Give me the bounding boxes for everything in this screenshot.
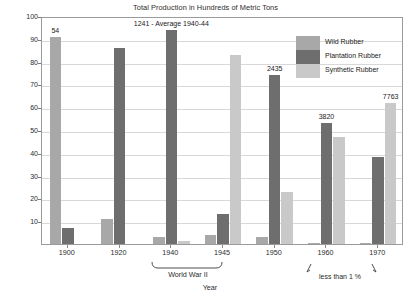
x-axis-tick-label: 1960 [305,248,345,257]
bar-group-1900: 54 [42,18,94,244]
x-axis-tick-label: 1950 [254,248,294,257]
bar-1900-wild-rubber [50,37,62,244]
x-axis-tick-label: 1900 [47,248,87,257]
y-axis-tick-label: 40 [14,150,38,157]
less-than-one-arrow-left [307,264,311,272]
bar-1940-synthetic-rubber [178,241,190,244]
bar-1940-plantation-rubber [166,30,178,244]
x-axis-tick-mark [170,245,171,248]
x-axis-tick-mark [377,245,378,248]
bar-group-1920 [94,18,146,244]
bar-1960-synthetic-rubber [333,137,345,244]
bar-group-1940: 1241 - Average 1940-44 [145,18,197,244]
y-axis-tick-label: 10 [14,218,38,225]
legend-label-plantation-rubber: Plantation Rubber [325,49,381,63]
x-axis-tick-mark [222,245,223,248]
less-than-one-arrow-right [372,264,376,272]
bar-1920-plantation-rubber [114,48,126,244]
x-axis-tick-label: 1920 [99,248,139,257]
y-axis-tick-label: 80 [14,59,38,66]
y-axis-tick-label: 20 [14,195,38,202]
bar-1970-wild-rubber [360,243,372,244]
bar-data-label: 7763 [331,93,411,100]
bar-1945-wild-rubber [205,235,217,244]
legend-swatch-wild-rubber [296,36,320,50]
y-axis-tick-label: 60 [14,104,38,111]
y-axis-tick-label: 70 [14,81,38,88]
bar-1945-plantation-rubber [217,214,229,244]
rubber-production-bar-chart: Total Production in Hundreds of Metric T… [0,0,411,300]
bar-1950-wild-rubber [256,237,268,244]
x-axis-tick-mark [67,245,68,248]
bar-1970-plantation-rubber [372,157,384,244]
y-axis-tick-label: 90 [14,36,38,43]
x-axis-tick-label: 1945 [202,248,242,257]
world-war-2-bracket [152,262,222,268]
x-axis-title: Year [180,283,240,292]
legend-swatch-synthetic-rubber [296,64,320,78]
y-axis-tick-label: 50 [14,127,38,134]
bar-1900-plantation-rubber [62,228,74,244]
y-axis-tick-labels: 100908070605040302010 [11,17,38,245]
x-axis-tick-label: 1940 [150,248,190,257]
less-than-one-percent-label: less than 1 % [305,273,375,280]
legend-labels: Wild RubberPlantation RubberSynthetic Ru… [325,35,381,77]
bar-1960-plantation-rubber [321,123,333,244]
legend-swatches [296,36,320,78]
y-axis-tick-label: 100 [14,13,38,20]
bar-1920-wild-rubber [101,219,113,244]
legend-label-synthetic-rubber: Synthetic Rubber [325,63,381,77]
x-axis-tick-label: 1970 [357,248,397,257]
x-axis-tick-mark [119,245,120,248]
chart-title: Total Production in Hundreds of Metric T… [0,3,411,12]
world-war-2-annotation-label: World War II [148,270,228,279]
bar-1960-wild-rubber [308,243,320,244]
bar-1950-synthetic-rubber [281,192,293,244]
legend-label-wild-rubber: Wild Rubber [325,35,381,49]
y-axis-tick-label: 30 [14,173,38,180]
bar-1940-wild-rubber [153,237,165,244]
x-axis-tick-mark [274,245,275,248]
legend-swatch-plantation-rubber [296,50,320,64]
bar-1945-synthetic-rubber [230,55,242,244]
bar-1950-plantation-rubber [269,75,281,244]
bar-1970-synthetic-rubber [385,103,397,244]
x-axis-tick-mark [325,245,326,248]
bar-group-1950: 2435 [249,18,301,244]
bar-group-1945 [197,18,249,244]
